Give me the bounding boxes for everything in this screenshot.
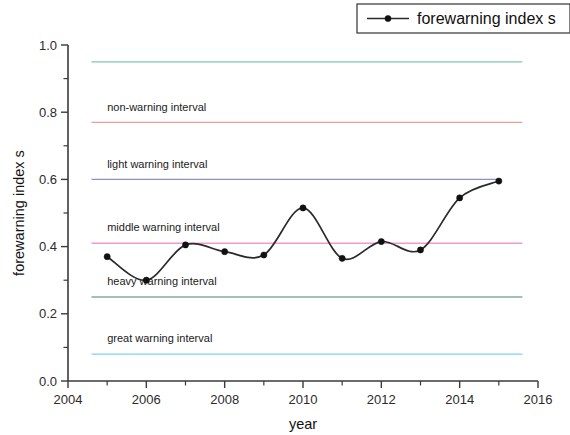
data-point-2005[interactable]	[104, 254, 110, 260]
x-tick-label-4: 2012	[367, 392, 396, 407]
interval-annotation-1: light warning interval	[107, 158, 207, 170]
interval-annotation-4: great warning interval	[107, 332, 212, 344]
y-tick-label-3: 0.6	[39, 172, 57, 187]
x-axis-title: year	[289, 416, 317, 432]
data-point-2015[interactable]	[496, 178, 502, 184]
x-tick-label-2: 2008	[210, 392, 239, 407]
data-point-2012[interactable]	[378, 238, 384, 244]
chart-container: 0.00.20.40.60.81.02004200620082010201220…	[0, 0, 570, 435]
data-point-2006[interactable]	[143, 277, 149, 283]
data-point-2014[interactable]	[457, 195, 463, 201]
y-tick-label-2: 0.4	[39, 239, 57, 254]
y-tick-label-4: 0.8	[39, 105, 57, 120]
x-tick-label-6: 2016	[524, 392, 553, 407]
data-point-2009[interactable]	[261, 252, 267, 258]
interval-annotation-0: non-warning interval	[107, 101, 206, 113]
y-axis-title: forewarning index s	[11, 150, 27, 276]
x-tick-label-0: 2004	[54, 392, 83, 407]
y-tick-label-1: 0.2	[39, 306, 57, 321]
data-point-2008[interactable]	[222, 249, 228, 255]
x-tick-label-1: 2006	[132, 392, 161, 407]
data-point-2007[interactable]	[182, 242, 188, 248]
data-point-2011[interactable]	[339, 255, 345, 261]
forewarning-index-line-chart: 0.00.20.40.60.81.02004200620082010201220…	[0, 0, 570, 435]
legend-label-forewarning-index: forewarning index s	[417, 10, 556, 27]
x-tick-label-3: 2010	[289, 392, 318, 407]
legend-marker-dot	[385, 15, 391, 21]
data-point-2013[interactable]	[417, 247, 423, 253]
y-tick-label-0: 0.0	[39, 374, 57, 389]
data-point-2010[interactable]	[300, 205, 306, 211]
y-tick-label-5: 1.0	[39, 38, 57, 53]
interval-annotation-3: heavy warning interval	[107, 275, 216, 287]
x-tick-label-5: 2014	[445, 392, 474, 407]
interval-annotation-2: middle warning interval	[107, 221, 219, 233]
